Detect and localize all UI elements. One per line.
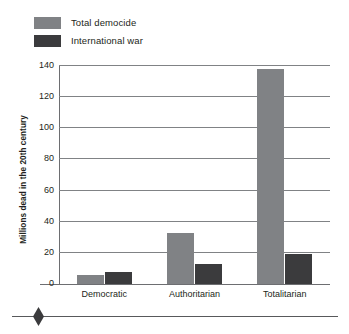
plot-area: 020406080100120140DemocraticAuthoritaria…	[59, 66, 330, 284]
x-tick-label-democratic: Democratic	[81, 289, 127, 299]
y-axis-title: Millions dead in the 20th century	[19, 95, 28, 265]
diamond-ornament-icon	[33, 307, 44, 326]
y-tick-label-100: 100	[39, 122, 54, 132]
x-tick-label-totalitarian: Totalitarian	[263, 289, 307, 299]
bar-group: Authoritarian	[149, 66, 239, 284]
y-tick-label-20: 20	[44, 247, 54, 257]
bar	[167, 233, 194, 284]
footer-divider	[12, 316, 338, 317]
y-tick-label-60: 60	[44, 185, 54, 195]
x-axis-line	[40, 284, 330, 285]
y-tick-label-0: 0	[49, 278, 54, 288]
bar-group: Democratic	[59, 66, 149, 284]
bar	[77, 275, 104, 284]
y-tick-label-120: 120	[39, 91, 54, 101]
y-tick-label-140: 140	[39, 60, 54, 70]
bar-group: Totalitarian	[240, 66, 330, 284]
x-tick-label-authoritarian: Authoritarian	[169, 289, 220, 299]
bar	[195, 264, 222, 284]
bar	[105, 272, 132, 284]
bar-chart: Millions dead in the 20th century 020406…	[0, 0, 349, 300]
bar	[257, 69, 284, 284]
y-tick-label-80: 80	[44, 153, 54, 163]
y-tick-label-40: 40	[44, 216, 54, 226]
bar	[285, 254, 312, 284]
